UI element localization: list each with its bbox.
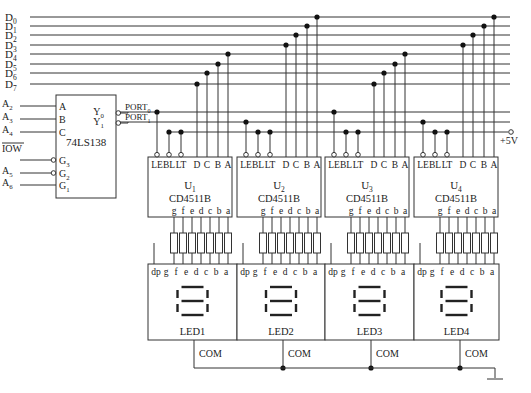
driver-pin-g: g: [261, 206, 266, 216]
led-pin-g: g: [164, 267, 169, 277]
led-pin-e: e: [450, 267, 454, 277]
driver-pin-le: LE: [240, 160, 252, 170]
resistor: [473, 233, 480, 253]
junction-dot: [381, 70, 386, 75]
resistor: [296, 233, 303, 253]
junction-dot: [331, 109, 336, 114]
resistor: [393, 233, 400, 253]
led-pin-g: g: [341, 267, 346, 277]
resistor: [207, 233, 214, 253]
junction-dot: [392, 61, 397, 66]
driver-pin-g: g: [438, 206, 443, 216]
driver-pin-g: g: [172, 206, 177, 216]
driver-input-bubble: [155, 152, 160, 157]
led-pin-d: d: [194, 267, 199, 277]
led-pin-b: b: [303, 267, 308, 277]
driver-part: CD4511B: [346, 193, 388, 204]
junction-dot: [215, 61, 220, 66]
driver-pin-d: d: [199, 206, 204, 216]
driver-input-bubble: [421, 152, 426, 157]
led-pin-e: e: [361, 267, 365, 277]
resistor: [216, 233, 223, 253]
led-pin-d: d: [460, 267, 465, 277]
resistor: [375, 233, 382, 253]
driver-pin-a: A: [402, 160, 409, 170]
decoder-pin-b: B: [59, 114, 66, 125]
driver-pin-d: D: [283, 160, 290, 170]
driver-input-bubble: [179, 152, 184, 157]
driver-pin-d: d: [465, 206, 470, 216]
vcc-terminal: [509, 130, 514, 135]
driver-input-bubble: [256, 152, 261, 157]
driver-pin-c: C: [381, 160, 387, 170]
junction-dot: [355, 129, 360, 134]
driver-pin-le: LE: [151, 160, 163, 170]
resistor: [171, 233, 178, 253]
resistor: [287, 233, 294, 253]
junction-dot: [371, 81, 376, 86]
driver-pin-bl: BL: [429, 160, 441, 170]
schematic: D0D1D2D3D4D5D6D7+5V74LS138A2AA3BA4CIOWG3…: [0, 0, 531, 393]
junction-dot: [204, 70, 209, 75]
driver-input-bubble: [332, 152, 337, 157]
led-pin-c: c: [293, 267, 297, 277]
driver-pin-lt: LT: [265, 160, 276, 170]
decoder-pin-c: C: [59, 127, 66, 138]
driver-pin-d: d: [376, 206, 381, 216]
decoder-input-bubble: [51, 158, 56, 163]
resistor: [269, 233, 276, 253]
junction-dot: [225, 51, 230, 56]
led-pin-dp: dp: [328, 267, 338, 277]
led-pin-g: g: [253, 267, 258, 277]
driver-pin-d: D: [371, 160, 378, 170]
driver-pin-c: C: [470, 160, 476, 170]
driver-part: CD4511B: [169, 193, 211, 204]
driver-pin-b: b: [306, 206, 311, 216]
junction-dot: [243, 119, 248, 124]
driver-pin-bl: BL: [163, 160, 175, 170]
driver-pin-b: B: [215, 160, 221, 170]
driver-pin-bl: BL: [340, 160, 352, 170]
com-label: COM: [465, 348, 488, 359]
decoder-input-label-a6: A6: [2, 177, 13, 190]
led-pin-b: b: [214, 267, 219, 277]
driver-pin-lt: LT: [442, 160, 453, 170]
led-pin-b: b: [480, 267, 485, 277]
junction-dot: [166, 129, 171, 134]
resistor: [402, 233, 409, 253]
resistor: [446, 233, 453, 253]
led-pin-c: c: [381, 267, 385, 277]
led-pin-c: c: [470, 267, 474, 277]
driver-pin-b: B: [304, 160, 310, 170]
resistor: [348, 233, 355, 253]
driver-pin-c: C: [293, 160, 299, 170]
resistor: [482, 233, 489, 253]
led-pin-d: d: [371, 267, 376, 277]
led-label: LED3: [357, 326, 383, 337]
junction-dot: [293, 32, 298, 37]
driver-part: CD4511B: [258, 193, 300, 204]
decoder-input-bubble: [51, 171, 56, 176]
driver-part: CD4511B: [435, 193, 477, 204]
driver-input-bubble: [433, 152, 438, 157]
junction-dot: [432, 129, 437, 134]
resistor: [180, 233, 187, 253]
junction-dot: [420, 119, 425, 124]
driver-pin-a: A: [491, 160, 498, 170]
driver-pin-d: D: [460, 160, 467, 170]
led-pin-e: e: [184, 267, 188, 277]
driver-input-bubble: [268, 152, 273, 157]
driver-pin-e: e: [456, 206, 460, 216]
driver-pin-b: b: [394, 206, 399, 216]
driver-pin-lt: LT: [353, 160, 364, 170]
com-label: COM: [199, 348, 222, 359]
junction-dot: [304, 23, 309, 28]
driver-pin-b: b: [483, 206, 488, 216]
decoder-input-label-a2: A2: [2, 98, 13, 111]
resistor: [278, 233, 285, 253]
resistor: [314, 233, 321, 253]
junction-dot: [314, 14, 319, 19]
junction-dot: [178, 129, 183, 134]
driver-pin-b: B: [392, 160, 398, 170]
driver-pin-bl: BL: [252, 160, 264, 170]
